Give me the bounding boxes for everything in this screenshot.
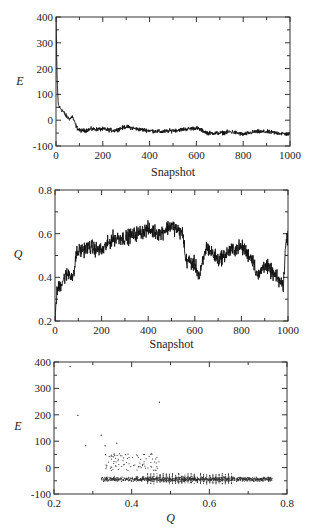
plot-frame xyxy=(54,362,287,494)
y-tick-label: 0 xyxy=(48,114,54,126)
x-tick-label: 0 xyxy=(52,324,58,336)
y-tick-label: -100 xyxy=(33,140,54,152)
scatter-points xyxy=(70,366,273,484)
y-tick-label: 0.2 xyxy=(38,315,52,327)
x-axis-label: Snapshot xyxy=(149,337,194,351)
x-tick-label: 0.4 xyxy=(125,497,139,509)
x-tick-label: 800 xyxy=(235,149,252,161)
y-tick-label: 0 xyxy=(46,462,52,474)
x-tick-label: 1000 xyxy=(279,149,302,161)
x-tick-label: 600 xyxy=(187,324,204,336)
y-tick-label: 0.4 xyxy=(38,271,52,283)
y-axis-label: E xyxy=(13,419,22,433)
x-tick-label: 0.6 xyxy=(202,497,216,509)
y-tick-label: 200 xyxy=(37,63,54,75)
y-tick-label: 100 xyxy=(37,88,54,100)
y-tick-label: 100 xyxy=(35,435,52,447)
y-tick-label: 300 xyxy=(37,37,54,49)
y-tick-label: 300 xyxy=(35,382,52,394)
y-tick-label: 200 xyxy=(35,409,52,421)
energy-vs-q-scatter: 0.20.40.60.8-1000100200300400QE xyxy=(13,356,294,525)
x-axis-label: Q xyxy=(166,511,175,525)
x-tick-label: 400 xyxy=(141,149,158,161)
data-trace xyxy=(56,17,290,136)
q-vs-snapshot-plot: 020040060080010000.20.40.60.8SnapshotQ xyxy=(14,184,300,351)
x-tick-label: 200 xyxy=(93,324,110,336)
data-trace xyxy=(55,220,288,321)
x-tick-label: 1000 xyxy=(277,324,300,336)
x-axis-label: Snapshot xyxy=(151,165,196,179)
x-tick-label: 0.8 xyxy=(280,497,294,509)
x-tick-label: 800 xyxy=(233,324,250,336)
y-tick-label: 0.6 xyxy=(38,228,52,240)
y-axis-label: E xyxy=(15,74,24,88)
x-tick-label: 400 xyxy=(140,324,157,336)
y-tick-label: 400 xyxy=(37,11,54,23)
y-tick-label: 400 xyxy=(35,356,52,368)
y-axis-label: Q xyxy=(14,247,23,261)
figure: 02004006008001000-1000100200300400Snapsh… xyxy=(0,0,313,532)
x-tick-label: 200 xyxy=(95,149,112,161)
y-tick-label: -100 xyxy=(31,488,52,500)
x-tick-label: 0 xyxy=(53,149,59,161)
x-tick-label: 600 xyxy=(188,149,205,161)
y-tick-label: 0.8 xyxy=(38,184,52,196)
energy-vs-snapshot-plot: 02004006008001000-1000100200300400Snapsh… xyxy=(15,11,301,179)
